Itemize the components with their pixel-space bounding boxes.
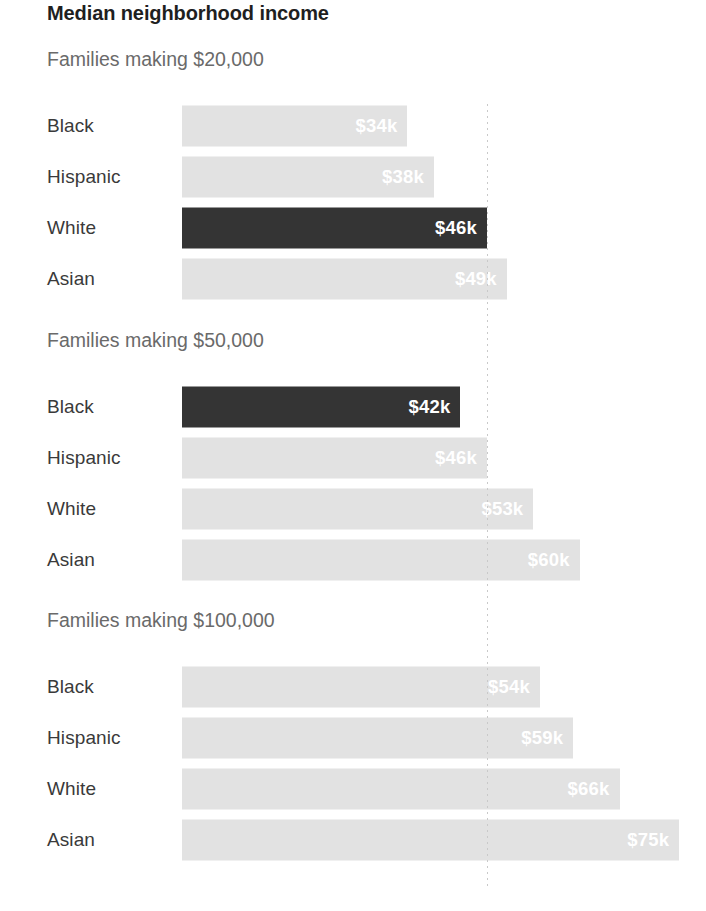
category-label: Asian [47,829,95,851]
bar-row[interactable]: White $53k [0,483,706,534]
bar-track: $54k [182,666,682,707]
bar-value-label: $60k [528,549,570,571]
bar-track: $42k [182,386,682,427]
bar-value-label: $75k [627,829,669,851]
bar-track: $34k [182,105,682,146]
bar-row[interactable]: Black $54k [0,661,706,712]
bar-value-label: $46k [435,217,477,239]
bar[interactable]: $60k [182,539,580,580]
bar[interactable]: $54k [182,666,540,707]
bar-row[interactable]: Black $34k [0,100,706,151]
category-label: White [47,778,96,800]
bar-track: $38k [182,156,682,197]
bar[interactable]: $46k [182,207,487,248]
bar[interactable]: $46k [182,437,487,478]
bar-track: $49k [182,258,682,299]
bar[interactable]: $42k [182,386,460,427]
bar-track: $66k [182,768,682,809]
chart-figure: Median neighborhood income Families maki… [0,0,706,911]
bar-row[interactable]: Asian $60k [0,534,706,585]
bar-row[interactable]: Hispanic $46k [0,432,706,483]
bar[interactable]: $38k [182,156,434,197]
category-label: Black [47,396,94,418]
bar-rows-0: Black $34k Hispanic $38k White [0,100,706,304]
bar-track: $53k [182,488,682,529]
category-label: Hispanic [47,166,121,188]
bar-track: $46k [182,437,682,478]
category-label: White [47,217,96,239]
category-label: Hispanic [47,447,121,469]
bar-row[interactable]: Asian $49k [0,253,706,304]
category-label: Black [47,676,94,698]
category-label: Hispanic [47,727,121,749]
bar-value-label: $46k [435,447,477,469]
bar[interactable]: $75k [182,819,679,860]
category-label: Asian [47,549,95,571]
bar-value-label: $49k [455,268,497,290]
bar-rows-2: Black $54k Hispanic $59k White [0,661,706,865]
bar-value-label: $66k [568,778,610,800]
bar-row[interactable]: Hispanic $38k [0,151,706,202]
bar-row[interactable]: Asian $75k [0,814,706,865]
bar-track: $60k [182,539,682,580]
group-label-2: Families making $100,000 [47,609,275,632]
bar-value-label: $53k [481,498,523,520]
chart-title: Median neighborhood income [47,2,329,25]
bar-rows-1: Black $42k Hispanic $46k White [0,381,706,585]
bar[interactable]: $59k [182,717,573,758]
bar-row[interactable]: White $46k [0,202,706,253]
group-label-0: Families making $20,000 [47,48,264,71]
bar-row[interactable]: Hispanic $59k [0,712,706,763]
bar-track: $75k [182,819,682,860]
bar-row[interactable]: Black $42k [0,381,706,432]
bar-value-label: $54k [488,676,530,698]
bar-value-label: $59k [521,727,563,749]
bar-value-label: $34k [355,115,397,137]
bar-track: $46k [182,207,682,248]
bar-track: $59k [182,717,682,758]
bar-value-label: $42k [408,396,450,418]
category-label: Black [47,115,94,137]
bar[interactable]: $66k [182,768,620,809]
group-label-1: Families making $50,000 [47,329,264,352]
bar-value-label: $38k [382,166,424,188]
category-label: White [47,498,96,520]
bar-row[interactable]: White $66k [0,763,706,814]
category-label: Asian [47,268,95,290]
bar[interactable]: $49k [182,258,507,299]
bar[interactable]: $34k [182,105,407,146]
bar[interactable]: $53k [182,488,533,529]
